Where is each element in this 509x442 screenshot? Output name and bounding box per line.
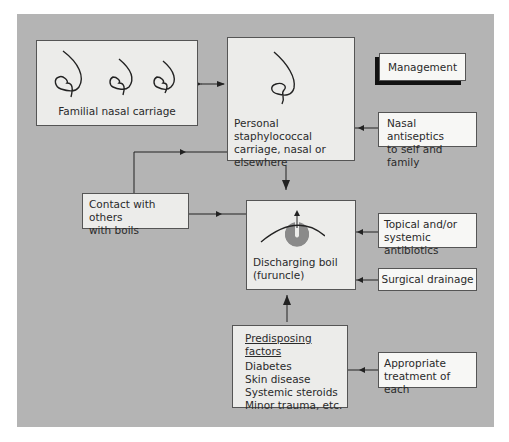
predisposing-heading: Predisposing factors xyxy=(245,332,347,358)
discharging-boil-box: Discharging boil (furuncle) xyxy=(246,200,356,290)
surgical-drainage-box: Surgical drainage xyxy=(378,268,477,291)
management-label: Management xyxy=(380,61,465,74)
contact-with-boils-box: Contact with others with boils xyxy=(82,193,189,229)
topical-antibiotics-box: Topical and/or systemic antibiotics xyxy=(378,213,477,248)
familial-carriage-box: Familial nasal carriage xyxy=(36,40,198,126)
boil-cross-section-icon xyxy=(257,208,325,252)
nose-profile-icon xyxy=(51,47,181,99)
personal-carriage-box: Personal staphylococcal carriage, nasal … xyxy=(227,37,355,161)
predisposing-factors-box: Predisposing factors Diabetes Skin disea… xyxy=(232,325,348,408)
nasal-antiseptics-box: Nasal antiseptics to self and family xyxy=(378,112,477,147)
nose-profile-icon xyxy=(266,48,316,108)
appropriate-treatment-box: Appropriate treatment of each xyxy=(378,352,477,388)
familial-label: Familial nasal carriage xyxy=(37,105,197,118)
surgical-label: Surgical drainage xyxy=(379,273,476,286)
personal-label: Personal staphylococcal carriage, nasal … xyxy=(234,117,354,169)
management-box: Management xyxy=(379,53,466,81)
